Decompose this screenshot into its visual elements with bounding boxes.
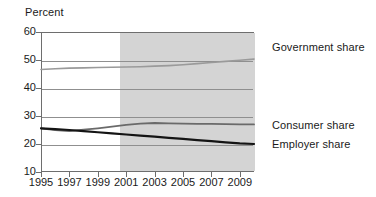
series-lines	[41, 32, 254, 172]
y-tick-label: 50	[0, 53, 36, 65]
chart-container: Percent 102030405060 1995199719992001200…	[0, 0, 376, 197]
x-tick-mark	[183, 172, 184, 177]
series-label-government: Government share	[272, 41, 365, 53]
x-tick-label: 1995	[29, 176, 53, 188]
y-tick-mark	[36, 60, 41, 61]
x-tick-label: 2001	[114, 176, 138, 188]
x-tick-label: 1999	[86, 176, 110, 188]
series-label-employer: Employer share	[272, 138, 350, 150]
y-tick-label: 20	[0, 137, 36, 149]
y-tick-label: 40	[0, 81, 36, 93]
series-line	[41, 59, 254, 69]
x-tick-mark	[211, 172, 212, 177]
x-tick-label: 2003	[142, 176, 166, 188]
series-label-consumer: Consumer share	[272, 119, 355, 131]
y-tick-label: 30	[0, 109, 36, 121]
x-tick-label: 2009	[228, 176, 252, 188]
x-tick-label: 1997	[57, 176, 81, 188]
y-tick-mark	[36, 116, 41, 117]
x-tick-label: 2007	[199, 176, 223, 188]
y-axis-title: Percent	[25, 6, 64, 18]
x-tick-mark	[240, 172, 241, 177]
x-tick-mark	[69, 172, 70, 177]
y-tick-mark	[36, 88, 41, 89]
series-line	[41, 128, 254, 144]
x-tick-label: 2005	[171, 176, 195, 188]
x-tick-mark	[155, 172, 156, 177]
y-tick-mark	[36, 32, 41, 33]
y-tick-label: 60	[0, 25, 36, 37]
x-tick-mark	[126, 172, 127, 177]
x-tick-mark	[98, 172, 99, 177]
x-tick-mark	[41, 172, 42, 177]
y-tick-mark	[36, 144, 41, 145]
